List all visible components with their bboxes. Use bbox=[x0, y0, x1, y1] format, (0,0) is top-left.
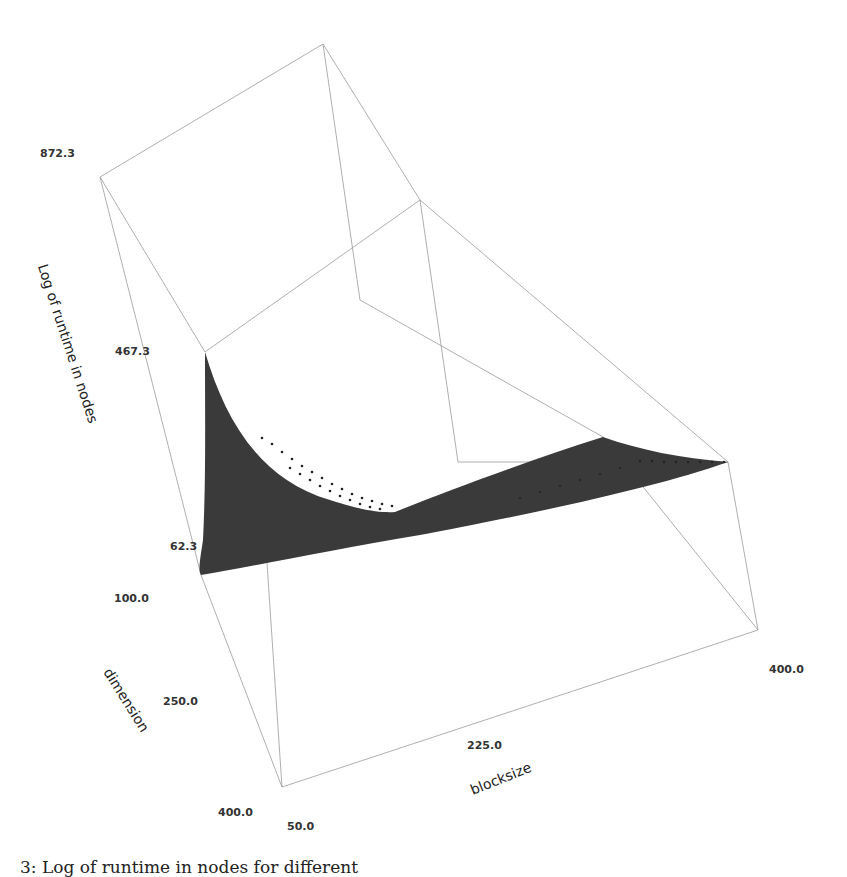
runtime-surface bbox=[200, 352, 728, 575]
x-tick-400: 400.0 bbox=[769, 663, 804, 676]
x-tick-50: 50.0 bbox=[287, 820, 314, 833]
y-tick-100: 100.0 bbox=[114, 592, 149, 605]
bounding-box bbox=[100, 44, 758, 787]
z-tick-mid: 467.3 bbox=[115, 345, 150, 358]
y-tick-400: 400.0 bbox=[218, 806, 253, 819]
z-tick-max: 872.3 bbox=[40, 147, 75, 160]
figure-caption: 3: Log of runtime in nodes for different bbox=[20, 857, 358, 877]
y-tick-250: 250.0 bbox=[163, 695, 198, 708]
x-tick-225: 225.0 bbox=[467, 739, 502, 752]
z-tick-min: 62.3 bbox=[170, 540, 197, 553]
